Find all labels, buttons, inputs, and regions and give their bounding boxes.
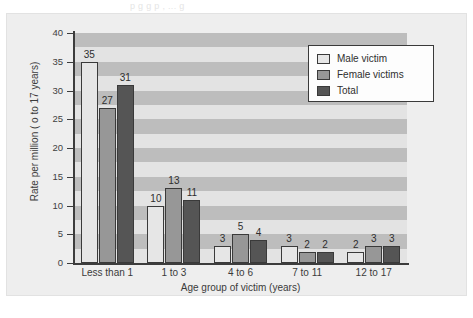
legend-label-female: Female victims [337,70,404,80]
bar-value-label: 4 [244,228,273,238]
y-axis-tick-label: 15 [37,172,63,181]
bar [365,246,382,263]
bar [347,252,364,264]
y-axis-tick [67,62,74,63]
bar [317,252,334,264]
bar-value-label: 2 [311,240,340,250]
x-axis-line [73,263,409,265]
bar-value-label: 13 [159,176,188,186]
page-top-text-fragment: p g g p , ... g [130,0,473,12]
bar-value-label: 11 [177,188,206,198]
y-axis-tick [67,91,74,92]
bar-value-label: 3 [377,234,406,244]
y-axis-tick [67,263,74,264]
y-axis-tick-label: 10 [37,201,63,210]
figure-panel: 0510152025303540 Rate per million ( o to… [6,13,467,296]
y-axis-tick-label: 40 [37,28,63,37]
bar [165,188,182,263]
bar [383,246,400,263]
y-axis-tick-label: 5 [37,229,63,238]
x-axis-category-label: 12 to 17 [332,267,415,278]
bar [147,206,164,264]
legend-swatch-male-icon [317,54,330,64]
bar [99,108,116,263]
y-axis-tick [67,33,74,34]
bar-value-label: 31 [111,73,140,83]
legend-swatch-female-icon [317,70,330,80]
bar [250,240,267,263]
legend-label-total: Total [337,86,358,96]
y-axis-tick-label: 30 [37,86,63,95]
x-axis-title: Age group of victim (years) [74,282,407,293]
bar [232,234,249,263]
bar [214,246,231,263]
bar [117,85,134,263]
legend-item-total[interactable]: Total [317,83,433,99]
legend-item-female-victims[interactable]: Female victims [317,67,433,83]
bar [81,62,98,263]
bar-value-label: 35 [75,50,104,60]
bar [299,252,316,264]
legend-swatch-total-icon [317,86,330,96]
y-axis-tick-label: 0 [37,258,63,267]
y-axis-tick [67,177,74,178]
y-axis-tick-label: 35 [37,57,63,66]
legend-label-male: Male victim [337,54,387,64]
legend-item-male-victim[interactable]: Male victim [317,51,433,67]
y-axis-tick-label: 25 [37,114,63,123]
bar [183,200,200,263]
y-axis-tick [67,119,74,120]
y-axis-tick-label: 20 [37,143,63,152]
y-axis-tick [67,206,74,207]
chart-legend: Male victim Female victims Total [308,45,434,102]
y-axis-tick [67,234,74,235]
y-axis-tick [67,148,74,149]
y-axis-title: Rate per million ( o to 17 years) [29,37,40,227]
